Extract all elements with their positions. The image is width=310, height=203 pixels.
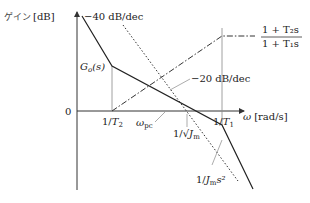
slope-minus20-label: −20 dB/dec	[191, 73, 251, 84]
slope-minus40-label: −40 dB/dec	[84, 11, 144, 22]
go-s-curve	[82, 16, 253, 189]
omega-pc-label: ωpc	[136, 117, 153, 130]
bode-gain-diagram: ゲイン[dB] 0 ω[rad/s] −40 dB/dec −20 dB/dec…	[0, 0, 310, 203]
inv-sqrt-jm-label: 1/√Jm	[173, 128, 200, 141]
leader-plant	[212, 140, 222, 165]
svg-text:1 + T₁s: 1 + T₁s	[262, 38, 299, 49]
leader-minus20	[170, 79, 190, 90]
leader-omega-pc	[155, 112, 165, 122]
origin-label: 0	[65, 106, 71, 117]
tick-1-over-T2: 1/T2	[102, 116, 123, 129]
y-axis-label: ゲイン[dB]	[4, 11, 55, 22]
plant-label: 1/Jms²	[196, 174, 226, 187]
x-axis-label: ω[rad/s]	[243, 111, 288, 122]
lead-lag-label: 1 + T₂s 1 + T₁s	[261, 24, 302, 49]
go-s-label: Go(s)	[80, 61, 105, 74]
svg-text:1 + T₂s: 1 + T₂s	[262, 24, 299, 35]
